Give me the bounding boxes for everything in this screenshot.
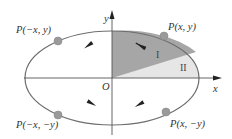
region-1-label: I <box>156 49 159 60</box>
region-2-label: II <box>180 62 187 73</box>
point-q4-label: P(x, −y) <box>169 118 206 130</box>
point-q2 <box>54 37 62 45</box>
point-q3-label: P(−x, −y) <box>15 119 59 131</box>
x-axis-label: x <box>212 83 218 94</box>
x-axis-arrow-icon <box>213 76 222 81</box>
point-q3 <box>54 111 62 119</box>
point-q4 <box>162 108 170 116</box>
arrow-q3-icon <box>87 99 98 107</box>
origin-label: O <box>102 81 110 92</box>
point-q1 <box>160 32 168 40</box>
point-q2-label: P(−x, y) <box>15 24 52 36</box>
y-axis-label: y <box>103 13 109 24</box>
y-axis-arrow-icon <box>110 10 115 19</box>
ellipse-diagram: y x O I II P(x, y) P(−x, y) P(−x, −y) P(… <box>0 0 232 139</box>
arrow-q4-icon <box>134 100 145 108</box>
point-q1-label: P(x, y) <box>167 21 196 33</box>
arrow-q2-icon <box>83 41 93 50</box>
